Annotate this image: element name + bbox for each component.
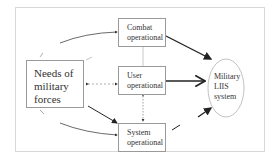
system-box: System operational [118,123,166,152]
system-label-2: operational [127,138,165,148]
edge-needs-system-curve [60,123,117,135]
combat-box: Combat operational [118,18,166,47]
combat-label-1: Combat [127,23,165,33]
needs-label-2: military [34,80,83,93]
target-label-3: system [214,92,240,102]
target-label-1: Military [214,72,240,82]
needs-label-1: Needs of [34,67,83,80]
target-label-2: LIIS [214,82,240,92]
needs-label-3: forces [34,93,83,106]
user-label-1: User [127,71,165,81]
target-label: Military LIIS system [214,72,240,102]
edge-combat-target [166,36,211,59]
edge-system-target [198,108,211,117]
combat-label-2: operational [127,33,165,43]
system-label-1: System [127,128,165,138]
user-label-2: operational [127,81,165,91]
needs-box: Needs of military forces [26,60,84,108]
user-box: User operational [118,66,166,95]
edge-needs-combat [60,32,117,43]
edge-needs-system [88,106,117,123]
